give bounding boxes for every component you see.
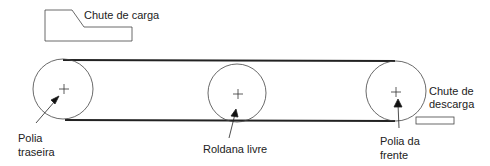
belt-top <box>63 60 395 61</box>
center-marks <box>59 84 401 99</box>
label-chute-descarga-2: descarga <box>429 98 474 111</box>
arrows <box>36 96 402 138</box>
label-polia-traseira-2: traseira <box>18 146 55 159</box>
label-polia-traseira-1: Polia <box>18 132 42 145</box>
label-polia-frente-2: frente <box>380 149 408 162</box>
label-roldana-livre: Roldana livre <box>203 143 267 156</box>
label-polia-frente-1: Polia da <box>380 135 420 148</box>
label-chute-descarga-1: Chute de <box>429 85 474 98</box>
label-chute-carga: Chute de carga <box>84 9 159 22</box>
discharge-chute <box>416 117 454 124</box>
